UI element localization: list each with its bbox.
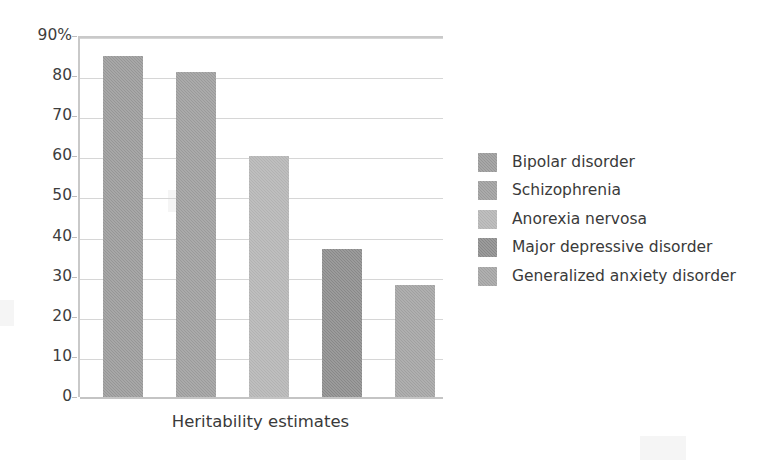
y-axis-tick-mark xyxy=(72,196,77,197)
plot-area xyxy=(78,36,443,397)
y-axis-tick-mark xyxy=(72,277,77,278)
legend-item-label: Major depressive disorder xyxy=(512,240,712,256)
y-axis-tick-mark xyxy=(72,317,77,318)
legend-item: Schizophrenia xyxy=(478,177,768,206)
y-axis-tick-label: 70 xyxy=(4,108,72,124)
y-axis-tick-label: 20 xyxy=(4,309,72,325)
chart-legend: Bipolar disorderSchizophreniaAnorexia ne… xyxy=(478,148,768,291)
y-axis-tick-label: 50 xyxy=(4,188,72,204)
gridline xyxy=(80,397,443,399)
legend-swatch-icon xyxy=(478,210,497,229)
y-axis-tick-mark xyxy=(72,76,77,77)
legend-swatch-icon xyxy=(478,153,497,172)
y-axis-tick-label: 0 xyxy=(4,389,72,405)
y-axis: 0102030405060708090% xyxy=(0,36,72,397)
legend-item-label: Generalized anxiety disorder xyxy=(512,269,736,285)
y-axis-tick-label: 10 xyxy=(4,349,72,365)
y-axis-tick-label: 80 xyxy=(4,68,72,84)
bar xyxy=(103,56,143,397)
y-axis-tick-mark xyxy=(72,357,77,358)
legend-item-label: Bipolar disorder xyxy=(512,155,635,171)
y-axis-tick-mark xyxy=(72,397,77,398)
legend-item-label: Anorexia nervosa xyxy=(512,212,647,228)
y-axis-tick-mark xyxy=(72,116,77,117)
y-axis-tick-mark xyxy=(72,237,77,238)
bar-chart-figure: 0102030405060708090% Heritability estima… xyxy=(0,0,777,465)
y-axis-tick-label: 60 xyxy=(4,148,72,164)
bar xyxy=(322,249,362,397)
y-axis-tick-label: 30 xyxy=(4,269,72,285)
legend-item: Major depressive disorder xyxy=(478,234,768,263)
legend-item: Generalized anxiety disorder xyxy=(478,262,768,291)
y-axis-tick-mark xyxy=(72,36,77,37)
legend-swatch-icon xyxy=(478,238,497,257)
legend-item: Anorexia nervosa xyxy=(478,205,768,234)
legend-swatch-icon xyxy=(478,267,497,286)
y-axis-tick-mark xyxy=(72,156,77,157)
y-axis-tick-label: 40 xyxy=(4,229,72,245)
bar xyxy=(249,156,289,397)
legend-swatch-icon xyxy=(478,181,497,200)
x-axis-title: Heritability estimates xyxy=(78,412,443,431)
y-axis-tick-label: 90% xyxy=(4,28,72,44)
bar xyxy=(395,285,435,397)
gridline xyxy=(80,38,443,39)
scan-artifact xyxy=(640,436,686,460)
legend-item: Bipolar disorder xyxy=(478,148,768,177)
bar xyxy=(176,72,216,397)
legend-item-label: Schizophrenia xyxy=(512,183,621,199)
